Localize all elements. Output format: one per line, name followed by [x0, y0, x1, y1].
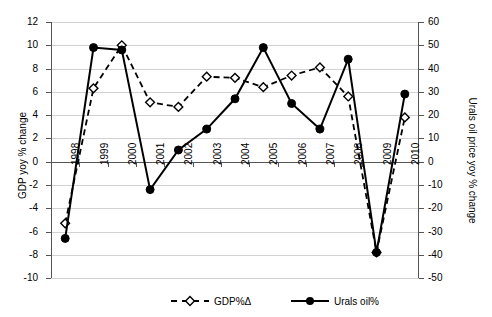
chart-legend: GDP%ΔUrals oil%	[0, 292, 492, 314]
x-axis-tick-label: 2005	[268, 142, 279, 164]
y-axis-left-tick-label: 6	[6, 86, 38, 97]
y-axis-right-tick	[419, 69, 424, 70]
y-axis-left-tick-label: 10	[6, 39, 38, 50]
y-axis-right-title: Urals oil price yoy % change	[467, 98, 478, 218]
y-axis-right-tick-label: -30	[428, 226, 460, 237]
data-point-filled-circle	[259, 44, 267, 52]
legend-swatch	[290, 295, 330, 307]
y-axis-right-tick-label: 30	[428, 86, 460, 97]
data-point-open-diamond	[259, 83, 268, 92]
x-axis-tick-label: 2001	[155, 142, 166, 164]
legend-label: GDP%Δ	[214, 296, 251, 307]
y-axis-right-tick-label: 0	[428, 156, 460, 167]
y-axis-right-tick	[419, 22, 424, 23]
legend-item-2[interactable]: Urals oil%	[290, 292, 379, 310]
y-axis-right-tick	[419, 232, 424, 233]
y-axis-right-tick	[419, 255, 424, 256]
x-axis-tick-label: 2003	[212, 142, 223, 164]
y-axis-right-tick-label: 20	[428, 109, 460, 120]
legend-label: Urals oil%	[334, 296, 379, 307]
y-axis-right-tick	[419, 208, 424, 209]
x-axis-tick-label: 2010	[410, 142, 421, 164]
x-axis-tick-label: 2009	[382, 142, 393, 164]
data-point-filled-circle	[174, 146, 182, 154]
y-axis-left-tick-label: -2	[6, 179, 38, 190]
legend-item-1[interactable]: GDP%Δ	[170, 292, 251, 310]
data-point-filled-circle	[146, 186, 154, 194]
y-axis-right-tick-label: -20	[428, 202, 460, 213]
chart-container: GDP yoy % change Urals oil price yoy % c…	[0, 0, 492, 317]
data-point-filled-circle	[203, 125, 211, 133]
y-axis-left-tick-label: 4	[6, 109, 38, 120]
legend-swatch	[170, 295, 210, 307]
data-point-open-diamond	[174, 103, 183, 112]
x-axis-tick-label: 2006	[297, 142, 308, 164]
data-point-filled-circle	[231, 95, 239, 103]
data-point-filled-circle	[61, 234, 69, 242]
y-axis-left-tick-label: 12	[6, 16, 38, 27]
data-point-open-diamond	[231, 73, 240, 82]
x-axis-tick-label: 2004	[240, 142, 251, 164]
y-axis-left-tick-label: 8	[6, 63, 38, 74]
x-axis-tick-label: 2000	[127, 142, 138, 164]
y-axis-left-tick-label: -8	[6, 249, 38, 260]
y-axis-left-tick-label: 2	[6, 132, 38, 143]
y-axis-left-tick-label: -10	[6, 272, 38, 283]
y-axis-right-tick-label: -10	[428, 179, 460, 190]
y-axis-right-tick-label: 40	[428, 63, 460, 74]
data-point-filled-circle	[344, 55, 352, 63]
x-axis-tick-label: 1998	[70, 142, 81, 164]
y-axis-left-tick-label: -6	[6, 226, 38, 237]
gridline	[51, 278, 419, 279]
y-axis-right-tick	[419, 45, 424, 46]
y-axis-left-tick-label: 0	[6, 156, 38, 167]
data-point-filled-circle	[118, 46, 126, 54]
x-axis-tick-label: 2002	[183, 142, 194, 164]
y-axis-right-tick	[419, 138, 424, 139]
y-axis-right-tick	[419, 185, 424, 186]
data-point-open-diamond	[287, 71, 296, 80]
x-axis-tick-label: 2007	[325, 142, 336, 164]
data-point-filled-circle	[401, 90, 409, 98]
y-axis-right-tick-label: -40	[428, 249, 460, 260]
y-axis-right-tick-label: 60	[428, 16, 460, 27]
data-point-open-diamond	[146, 98, 155, 107]
data-point-open-diamond	[344, 92, 353, 101]
y-axis-left-tick	[46, 278, 51, 279]
y-axis-right-tick-label: 10	[428, 132, 460, 143]
y-axis-right-tick	[419, 92, 424, 93]
y-axis-right-tick	[419, 278, 424, 279]
data-point-filled-circle	[373, 248, 381, 256]
data-point-filled-circle	[288, 100, 296, 108]
y-axis-right-tick-label: -50	[428, 272, 460, 283]
data-point-filled-circle	[316, 125, 324, 133]
x-axis-tick-label: 1999	[99, 142, 110, 164]
y-axis-right-tick-label: 50	[428, 39, 460, 50]
x-axis-tick-label: 2008	[353, 142, 364, 164]
y-axis-left-tick-label: -4	[6, 202, 38, 213]
data-point-open-diamond	[202, 72, 211, 81]
data-point-filled-circle	[90, 44, 98, 52]
y-axis-right-tick	[419, 115, 424, 116]
